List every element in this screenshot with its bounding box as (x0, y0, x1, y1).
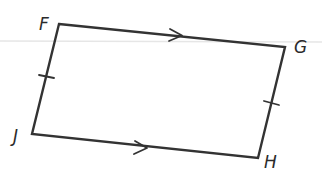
parallel-arrow-icon-jh (134, 141, 147, 154)
guide-line (0, 41, 322, 42)
parallelogram-diagram: F G H J (0, 0, 322, 179)
vertex-label-g: G (294, 37, 307, 57)
vertex-label-h: H (264, 152, 277, 172)
vertex-label-j: J (10, 126, 18, 146)
vertex-label-f: F (39, 14, 49, 34)
parallelogram-fghj (32, 24, 285, 158)
